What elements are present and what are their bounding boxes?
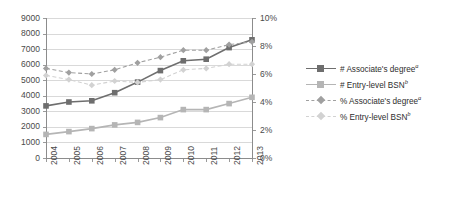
legend-key-icon [306, 95, 336, 105]
data-point [181, 58, 187, 64]
legend-item-label: % Entry-level BSNb [340, 111, 411, 122]
x-axis-tick [206, 159, 207, 162]
data-point [66, 99, 72, 105]
y-axis-line [46, 18, 47, 159]
y-axis-tick [43, 49, 46, 50]
x-axis-tick [115, 159, 116, 162]
y-axis-tick [43, 142, 46, 143]
y-axis-tick-label: 7000 [21, 45, 40, 54]
series-1 [43, 37, 255, 109]
y-axis-tick [43, 80, 46, 81]
x-axis-tick-label: 2012 [233, 146, 242, 165]
y-axis-tick [43, 34, 46, 35]
x-axis-tick-label: 2007 [119, 146, 128, 165]
gridline [46, 18, 252, 19]
x-axis-tick-label: 2005 [73, 146, 82, 165]
y-axis-tick-label: 9000 [21, 14, 40, 23]
data-point [89, 98, 95, 104]
legend-key-icon [306, 63, 336, 73]
x-axis-tick [229, 159, 230, 162]
secondary-y-axis-tick [253, 130, 256, 131]
y-axis-tick-label: 2000 [21, 122, 40, 131]
y-axis-tick [43, 96, 46, 97]
secondary-y-axis-line [252, 18, 253, 159]
y-axis-tick-label: 0 [35, 154, 40, 163]
legend-item-bsn-pct[interactable]: % Entry-level BSNb [306, 110, 411, 122]
legend-footnote-marker: a [418, 94, 421, 101]
series-line [46, 64, 252, 85]
x-axis-tick-label: 2013 [256, 146, 265, 165]
legend-marker-icon [317, 81, 324, 88]
legend-key-icon [306, 79, 336, 89]
data-point [157, 54, 163, 60]
y-axis-tick-label: 4000 [21, 91, 40, 100]
y-axis-tick [43, 127, 46, 128]
legend-marker-icon [316, 96, 324, 104]
data-point [226, 42, 232, 48]
legend-item-label: % Associate's degreea [340, 95, 421, 106]
x-axis-tick [183, 159, 184, 162]
secondary-y-axis-tick-label: 6% [260, 70, 272, 79]
x-axis-tick-label: 2006 [96, 146, 105, 165]
gridline [46, 80, 252, 81]
data-point [180, 67, 186, 73]
legend-footnote-marker: b [405, 78, 408, 85]
data-point [112, 78, 118, 84]
series-3 [43, 39, 255, 77]
x-axis-tick-label: 2009 [164, 146, 173, 165]
secondary-y-axis-tick [253, 74, 256, 75]
secondary-y-axis-tick-label: 10% [260, 14, 277, 23]
secondary-y-axis-tick-label: 8% [260, 42, 272, 51]
secondary-y-axis-tick [253, 102, 256, 103]
legend-footnote-marker: b [407, 110, 410, 117]
gridline [46, 127, 252, 128]
legend-item-associate-pct[interactable]: % Associate's degreea [306, 94, 421, 106]
y-axis-tick [43, 111, 46, 112]
data-point [158, 68, 164, 74]
x-axis-tick [252, 159, 253, 162]
secondary-y-axis-tick-label: 2% [260, 126, 272, 135]
legend-key-icon [306, 111, 336, 121]
gridline [46, 96, 252, 97]
y-axis-tick [43, 65, 46, 66]
x-axis-tick-label: 2011 [210, 147, 219, 165]
legend-marker-icon [316, 112, 324, 120]
data-point [112, 67, 118, 73]
y-axis-tick-label: 8000 [21, 29, 40, 38]
x-axis-tick [160, 159, 161, 162]
x-axis-tick [69, 159, 70, 162]
series-line [46, 42, 252, 74]
data-point [112, 90, 118, 96]
data-point [66, 129, 72, 135]
data-point [226, 101, 232, 107]
x-axis-tick [138, 159, 139, 162]
x-axis-tick-label: 2004 [50, 146, 59, 165]
legend-item-associate-count[interactable]: # Associate's degreea [306, 62, 419, 74]
secondary-y-axis-tick [253, 18, 256, 19]
y-axis-tick [43, 18, 46, 19]
data-point [66, 70, 72, 76]
data-point [203, 65, 209, 71]
gridline [46, 142, 252, 143]
chart-container: 0100020003000400050006000700080009000 0%… [0, 0, 455, 210]
data-point [89, 82, 95, 88]
data-point [89, 71, 95, 77]
secondary-y-axis-tick-label: 4% [260, 98, 272, 107]
series-line [46, 97, 252, 134]
legend-item-label: # Entry-level BSNb [340, 79, 408, 90]
x-axis-tick-label: 2008 [142, 146, 151, 165]
legend-item-bsn-count[interactable]: # Entry-level BSNb [306, 78, 408, 90]
data-point [135, 120, 141, 126]
x-axis-tick-label: 2010 [187, 146, 196, 165]
legend-marker-icon [317, 65, 324, 72]
legend-footnote-marker: a [415, 62, 418, 69]
x-axis-tick [92, 159, 93, 162]
gridline [46, 111, 252, 112]
gridline [46, 65, 252, 66]
y-axis-tick-label: 6000 [21, 60, 40, 69]
y-axis-tick-label: 3000 [21, 107, 40, 116]
secondary-y-axis-tick [253, 46, 256, 47]
data-point [158, 115, 164, 121]
series-2 [43, 95, 255, 138]
gridline [46, 34, 252, 35]
